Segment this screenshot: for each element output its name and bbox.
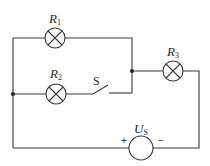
circuit-wires [0,0,210,166]
junction-dot-left [11,92,15,96]
source-plus-sign: + [121,136,127,146]
source-minus-sign: − [158,136,164,146]
wire-r3-branch [13,71,199,148]
voltage-source-icon [129,136,153,160]
label-switch: S [93,75,100,87]
label-r1: R1 [49,12,61,27]
label-r2: R2 [50,67,62,82]
lamp-r3-icon [163,61,183,81]
circuit-diagram: R1 R2 R3 S US + − [0,0,210,166]
label-r3: R3 [167,45,179,60]
lamp-r2-icon [46,84,66,104]
lamp-r1-icon [45,28,65,48]
junction-dot-right [130,69,134,73]
label-source: US [134,122,148,137]
